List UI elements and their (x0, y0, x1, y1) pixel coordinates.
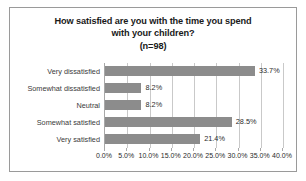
bar-value-label: 21.4% (204, 134, 225, 143)
bar-row: Somewhat satisfied28.5% (105, 114, 282, 131)
category-label: Somewhat satisfied (37, 118, 100, 127)
x-axis-tick (215, 148, 216, 151)
bar (105, 134, 200, 144)
category-label: Neutral (76, 101, 100, 110)
chart-frame: How satisfied are you with the time you … (9, 7, 297, 172)
plot-area: Very dissatisfied33.7%Somewhat dissatisf… (104, 63, 282, 148)
x-axis-tick (282, 148, 283, 151)
x-axis-tick (238, 148, 239, 151)
x-axis: 0.0%5.0%10.0%15.0%20.0%25.0%30.0%35.0%40… (104, 148, 282, 168)
chart-title-line-1: How satisfied are you with the time you … (20, 15, 286, 27)
x-axis-tick (126, 148, 127, 151)
x-axis-tick (193, 148, 194, 151)
x-axis-tick-label: 35.0% (250, 152, 270, 159)
bar-value-label: 28.5% (236, 117, 257, 126)
bar-value-label: 33.7% (259, 66, 280, 75)
bar-row: Somewhat dissatisfied8.2% (105, 80, 282, 97)
bar-row: Neutral8.2% (105, 97, 282, 114)
chart-title: How satisfied are you with the time you … (20, 15, 286, 52)
bar-value-label: 8.2% (145, 83, 162, 92)
x-axis-tick-label: 40.0% (272, 152, 292, 159)
x-axis-tick-label: 15.0% (161, 152, 181, 159)
x-axis-tick-label: 0.0% (96, 152, 112, 159)
category-label: Very dissatisfied (47, 67, 100, 76)
x-axis-tick-label: 20.0% (183, 152, 203, 159)
x-axis-tick (104, 148, 105, 151)
chart-title-line-3: (n=98) (20, 40, 286, 52)
x-axis-tick-label: 25.0% (205, 152, 225, 159)
bar-row: Very satisfied21.4% (105, 131, 282, 148)
bar (105, 83, 141, 93)
category-label: Very satisfied (57, 135, 100, 144)
x-axis-tick (171, 148, 172, 151)
bar (105, 66, 255, 76)
bar-row: Very dissatisfied33.7% (105, 63, 282, 80)
x-axis-tick (260, 148, 261, 151)
x-axis-tick (149, 148, 150, 151)
chart-title-line-2: with your children? (20, 27, 286, 39)
gridline (283, 63, 284, 148)
x-axis-tick-label: 5.0% (118, 152, 134, 159)
x-axis-tick-label: 10.0% (139, 152, 159, 159)
x-axis-tick-label: 30.0% (228, 152, 248, 159)
bar-value-label: 8.2% (145, 100, 162, 109)
category-label: Somewhat dissatisfied (27, 84, 100, 93)
bar (105, 100, 141, 110)
bar (105, 117, 232, 127)
